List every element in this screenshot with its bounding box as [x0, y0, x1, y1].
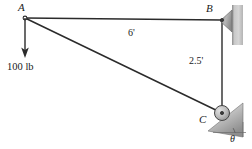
joint-c-marker — [220, 111, 223, 114]
load-arrow-at-a — [21, 18, 29, 58]
statics-figure: A B C 6' 2.5' 100 lb θ — [0, 0, 252, 149]
joint-b-marker — [220, 18, 223, 21]
figure-canvas — [0, 0, 252, 149]
dimension-label-ab: 6' — [128, 28, 135, 38]
label-joint-c: C — [199, 114, 206, 125]
label-joint-a: A — [18, 2, 25, 13]
wall-at-b — [232, 5, 243, 45]
label-joint-b: B — [206, 3, 213, 14]
dimension-label-bc: 2.5' — [189, 56, 203, 66]
load-label: 100 lb — [7, 62, 34, 73]
angle-theta-label: θ — [230, 134, 235, 144]
member-ab — [25, 18, 222, 20]
